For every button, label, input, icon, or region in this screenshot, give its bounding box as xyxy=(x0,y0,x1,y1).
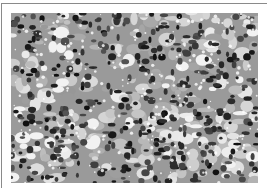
tissue-texture xyxy=(11,13,258,183)
histology-micrograph-image xyxy=(11,13,258,183)
